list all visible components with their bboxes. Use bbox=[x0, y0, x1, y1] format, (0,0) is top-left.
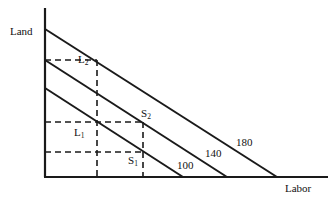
isoquant-line-180 bbox=[45, 29, 277, 177]
isoquant-label-100: 100 bbox=[177, 160, 194, 171]
point-label-S1: S1 bbox=[128, 155, 138, 166]
point-label-L2-sub: 2 bbox=[85, 58, 89, 67]
point-label-L2: L2 bbox=[78, 54, 88, 65]
isoquant-label-140: 140 bbox=[205, 148, 222, 159]
isoquant-line-100 bbox=[45, 88, 183, 177]
point-label-S2-sub: 2 bbox=[147, 112, 151, 121]
point-label-L2-base: L bbox=[78, 53, 85, 65]
point-label-L1-base: L bbox=[74, 126, 81, 138]
point-label-S1-sub: 1 bbox=[134, 159, 138, 168]
isoquant-lines-group bbox=[45, 29, 277, 177]
point-label-L1-sub: 1 bbox=[81, 131, 85, 140]
y-axis-label: Land bbox=[10, 26, 33, 37]
isoquant-label-180: 180 bbox=[236, 137, 253, 148]
point-label-L1: L1 bbox=[74, 127, 84, 138]
isoquant-figure: Land Labor 100 140 180 L2 L1 S1 S2 bbox=[0, 0, 329, 201]
figure-canvas bbox=[0, 0, 329, 201]
x-axis-label: Labor bbox=[285, 183, 311, 194]
point-label-S2: S2 bbox=[141, 108, 151, 119]
